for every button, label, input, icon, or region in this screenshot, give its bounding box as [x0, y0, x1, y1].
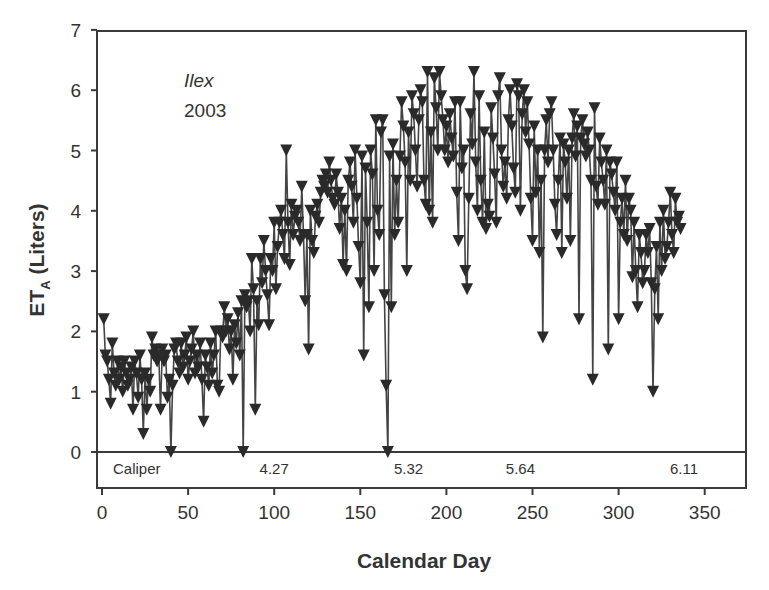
triangle-down-marker [356, 151, 368, 163]
triangle-down-marker [590, 181, 602, 193]
triangle-down-marker [568, 108, 580, 120]
triangle-down-marker [303, 343, 315, 355]
triangle-down-marker [588, 102, 600, 114]
triangle-down-marker [480, 223, 492, 235]
triangle-down-marker [280, 145, 292, 157]
triangle-down-marker [528, 120, 540, 132]
x-tick-label: 350 [689, 502, 721, 523]
caliper-label: Caliper [113, 460, 161, 477]
triangle-down-marker [485, 102, 497, 114]
caliper-value: 5.64 [506, 460, 535, 477]
triangle-down-marker [213, 386, 225, 398]
y-tick-label: 3 [70, 261, 81, 282]
triangle-down-marker [537, 331, 549, 343]
y-tick-label: 7 [70, 20, 81, 41]
triangle-down-marker [492, 90, 504, 102]
triangle-down-marker [668, 247, 680, 259]
triangle-down-marker [396, 96, 408, 108]
triangle-down-marker [501, 193, 513, 205]
triangle-down-marker [451, 187, 463, 199]
x-tick-label: 150 [344, 502, 376, 523]
triangle-down-marker [504, 84, 516, 96]
x-axis-title: Calendar Day [357, 549, 492, 572]
triangle-down-marker [613, 313, 625, 325]
triangle-down-marker [494, 72, 506, 84]
triangle-down-marker [415, 84, 427, 96]
triangle-down-marker [263, 319, 275, 331]
x-tick-label: 250 [517, 502, 549, 523]
svg-text:ETA (Liters): ETA (Liters) [25, 203, 53, 316]
triangle-down-marker [182, 374, 194, 386]
y-tick-label: 0 [70, 442, 81, 463]
et-chart: 01234567 050100150200250300350 Caliper4.… [0, 0, 769, 590]
y-tick-label: 1 [70, 382, 81, 403]
x-axis: 050100150200250300350 [97, 488, 721, 523]
triangle-down-marker [248, 283, 260, 295]
caliper-strip: Caliper4.275.325.646.11 [113, 460, 698, 477]
triangle-down-marker [387, 138, 399, 150]
series-line [104, 72, 681, 452]
triangle-down-marker [430, 102, 442, 114]
triangle-down-marker [127, 404, 139, 416]
triangle-down-marker [545, 96, 557, 108]
x-tick-label: 300 [603, 502, 635, 523]
triangle-down-marker [358, 350, 370, 362]
triangle-down-marker [573, 313, 585, 325]
triangle-down-marker [452, 235, 464, 247]
triangle-down-marker [468, 66, 480, 78]
triangle-down-marker [601, 145, 613, 157]
triangle-down-marker [556, 247, 568, 259]
triangle-down-marker [406, 90, 418, 102]
triangle-down-marker [146, 331, 158, 343]
triangle-down-marker [385, 301, 397, 313]
triangle-down-marker [258, 235, 270, 247]
triangle-down-marker [499, 157, 511, 169]
triangle-down-marker [198, 416, 210, 428]
series-lines [104, 72, 681, 452]
triangle-down-marker [251, 295, 263, 307]
triangle-down-marker [609, 205, 621, 217]
triangle-down-marker [341, 265, 353, 277]
triangle-down-marker [155, 404, 167, 416]
year-annotation: 2003 [184, 100, 226, 121]
triangle-down-marker [461, 283, 473, 295]
triangle-down-marker [619, 175, 631, 187]
x-tick-label: 100 [258, 502, 290, 523]
triangle-down-marker [194, 337, 206, 349]
triangle-down-marker [227, 374, 239, 386]
y-axis: 01234567 [70, 20, 97, 463]
triangle-down-marker [602, 343, 614, 355]
triangle-down-marker [137, 428, 149, 440]
triangle-down-marker [218, 301, 230, 313]
triangle-down-marker [675, 223, 687, 235]
x-tick-label: 200 [431, 502, 463, 523]
triangle-down-marker [270, 283, 282, 295]
triangle-down-marker [411, 181, 423, 193]
y-tick-label: 6 [70, 80, 81, 101]
triangle-down-marker [628, 217, 640, 229]
triangle-down-marker [427, 217, 439, 229]
caliper-value: 4.27 [260, 460, 289, 477]
y-axis-title-unit: (Liters) [25, 203, 48, 280]
x-tick-label: 50 [178, 502, 199, 523]
triangle-down-marker [456, 163, 468, 175]
triangle-down-marker [508, 163, 520, 175]
caliper-value: 6.11 [670, 460, 698, 477]
triangle-down-marker [106, 337, 118, 349]
triangle-down-marker [249, 404, 261, 416]
triangle-down-marker [98, 313, 110, 325]
triangle-down-marker [587, 374, 599, 386]
triangle-down-marker [514, 205, 526, 217]
triangle-down-marker [401, 265, 413, 277]
triangle-down-marker [306, 235, 318, 247]
triangle-down-marker [380, 380, 392, 392]
triangle-down-marker [549, 199, 561, 211]
triangle-down-marker [638, 265, 650, 277]
triangle-down-marker [105, 398, 117, 410]
triangle-down-marker [647, 386, 659, 398]
caliper-value: 5.32 [394, 460, 423, 477]
triangle-down-marker [632, 301, 644, 313]
triangle-down-marker [466, 138, 478, 150]
species-annotation: Ilex [184, 70, 215, 91]
y-axis-title: ETA (Liters) [25, 203, 53, 316]
